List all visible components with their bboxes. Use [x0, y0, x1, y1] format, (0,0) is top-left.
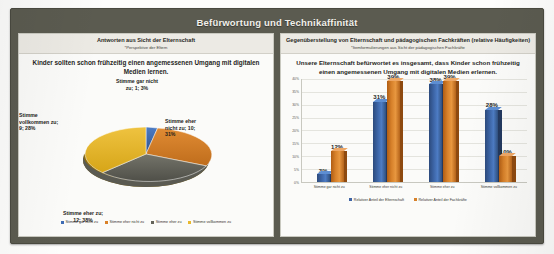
- bar-eltern-0: 3%: [317, 174, 330, 182]
- y-tick-2: 10%: [292, 155, 299, 159]
- pie-label-gar-nicht: Stimme gar nicht zu; 1; 3%: [107, 78, 167, 91]
- bar-legend-label-fach: Relativer Anteil der Fachkräfte: [419, 198, 467, 202]
- bar-groups: 3% 12%: [302, 79, 527, 182]
- bar-eltern-2: 38%: [429, 84, 442, 182]
- legend-swatch-eltern-icon: [349, 198, 352, 201]
- bar-chart-title: Unsere Elternschaft befürwortet es insge…: [283, 57, 533, 76]
- bar-eltern-3: 28%: [485, 110, 498, 182]
- bar-group-0: 3% 12%: [302, 79, 358, 182]
- y-tick-6: 30%: [292, 103, 299, 107]
- bar-fach-2: 39%: [443, 81, 456, 181]
- legend-swatch-yellow-icon: [188, 221, 191, 224]
- bar-fach-0: 12%: [331, 151, 344, 182]
- pie-label-vollkommen-zu: Stimme vollkommen zu; 9; 28%: [19, 112, 75, 132]
- slide-canvas: Befürwortung und Technikaffinität Antwor…: [0, 0, 554, 254]
- bar-legend-item-fach: Relativer Anteil der Fachkräfte: [414, 198, 467, 202]
- left-panel-header-note: *Perspektive der Eltern: [23, 45, 269, 50]
- pie-legend-item-1: Stimme eher nicht zu: [105, 220, 144, 224]
- bar-legend: Relativer Anteil der Elternschaft Relati…: [283, 198, 533, 202]
- bar-group-2: 38% 39%: [415, 79, 471, 182]
- slide-title: Befürwortung und Technikaffinität: [18, 14, 536, 33]
- left-panel: Antworten aus Sicht der Elternschaft *Pe…: [18, 33, 274, 237]
- bar-chart: 0% 5% 10% 15% 20% 25% 30% 35% 40%: [285, 79, 529, 197]
- y-tick-4: 20%: [292, 129, 299, 133]
- panels-row: Antworten aus Sicht der Elternschaft *Pe…: [18, 33, 536, 237]
- legend-swatch-fach-icon: [414, 198, 417, 201]
- left-panel-header-title: Antworten aus Sicht der Elternschaft: [23, 37, 269, 44]
- right-panel-body: Unsere Elternschaft befürwortet es insge…: [281, 54, 535, 236]
- bar-chart-y-axis: 0% 5% 10% 15% 20% 25% 30% 35% 40%: [285, 79, 300, 183]
- x-label-1: Stimme eher nicht zu: [358, 184, 415, 197]
- left-panel-header: Antworten aus Sicht der Elternschaft *Pe…: [19, 34, 273, 54]
- y-tick-7: 35%: [292, 90, 299, 94]
- pie-chart: Stimme gar nicht zu; 1; 3% Stimme eher n…: [21, 76, 271, 226]
- legend-swatch-orange-icon: [105, 221, 108, 224]
- pie-legend-label-1: Stimme eher nicht zu: [110, 220, 145, 224]
- pie-legend-label-3: Stimme vollkommen zu: [193, 220, 231, 224]
- y-tick-3: 15%: [292, 142, 299, 146]
- bar-group-1: 31% 39%: [358, 79, 414, 182]
- right-panel: Gegenüberstellung von Elternschaft und p…: [280, 33, 536, 237]
- y-tick-1: 5%: [294, 168, 299, 172]
- legend-swatch-blue-icon: [61, 221, 64, 224]
- pie-legend: Stimme gar nicht zu Stimme eher nicht zu…: [21, 220, 271, 224]
- legend-swatch-gray-icon: [151, 221, 154, 224]
- pie-chart-title: Kinder sollten schon frühzeitig einen an…: [21, 57, 271, 76]
- right-panel-header-note: *Itemformulierungen aus Sicht der pädago…: [285, 45, 531, 50]
- bar-chart-plot-area: 3% 12%: [301, 79, 527, 183]
- bar-group-3: 28% 10%: [471, 79, 527, 182]
- pie-label-eher-nicht: Stimme eher nicht zu; 10; 31%: [165, 118, 213, 138]
- y-tick-8: 40%: [292, 77, 299, 81]
- pie-legend-item-2: Stimme eher zu: [151, 220, 181, 224]
- bar-legend-item-eltern: Relativer Anteil der Elternschaft: [349, 198, 404, 202]
- bar-chart-x-axis: Stimme gar nicht zu Stimme eher nicht zu…: [301, 184, 527, 197]
- y-tick-0: 0%: [294, 181, 299, 185]
- left-panel-body: Kinder sollten schon frühzeitig einen an…: [19, 54, 273, 236]
- pie-legend-item-3: Stimme vollkommen zu: [188, 220, 231, 224]
- y-tick-5: 25%: [292, 116, 299, 120]
- pie-legend-item-0: Stimme gar nicht zu: [61, 220, 98, 224]
- slide-frame: Befürwortung und Technikaffinität Antwor…: [10, 8, 544, 244]
- x-label-3: Stimme vollkommen zu: [471, 184, 528, 197]
- pie-legend-label-2: Stimme eher zu: [156, 220, 182, 224]
- bar-fach-1: 39%: [387, 81, 400, 181]
- bar-legend-label-eltern: Relativer Anteil der Elternschaft: [354, 198, 404, 202]
- x-label-0: Stimme gar nicht zu: [301, 184, 358, 197]
- x-label-2: Stimme eher zu: [414, 184, 471, 197]
- bar-fach-3: 10%: [499, 156, 512, 182]
- right-panel-header-title: Gegenüberstellung von Elternschaft und p…: [285, 37, 531, 44]
- bar-eltern-1: 31%: [373, 102, 386, 182]
- right-panel-header: Gegenüberstellung von Elternschaft und p…: [281, 34, 535, 54]
- pie-legend-label-0: Stimme gar nicht zu: [65, 220, 98, 224]
- pie-graphic: [71, 98, 221, 210]
